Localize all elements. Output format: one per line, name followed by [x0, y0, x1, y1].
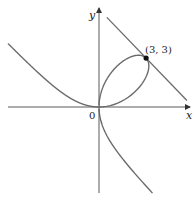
tangent-point-marker: [144, 56, 149, 61]
folium-lower-branch: [99, 109, 152, 194]
y-axis-label: y: [88, 9, 96, 22]
point-label: (3, 3): [145, 44, 172, 55]
folium-left-branch: [8, 43, 99, 107]
x-axis-label: x: [186, 109, 193, 122]
folium-diagram: (3, 3) x y 0: [0, 0, 196, 207]
origin-label: 0: [89, 110, 95, 121]
folium-loop: [99, 55, 149, 107]
